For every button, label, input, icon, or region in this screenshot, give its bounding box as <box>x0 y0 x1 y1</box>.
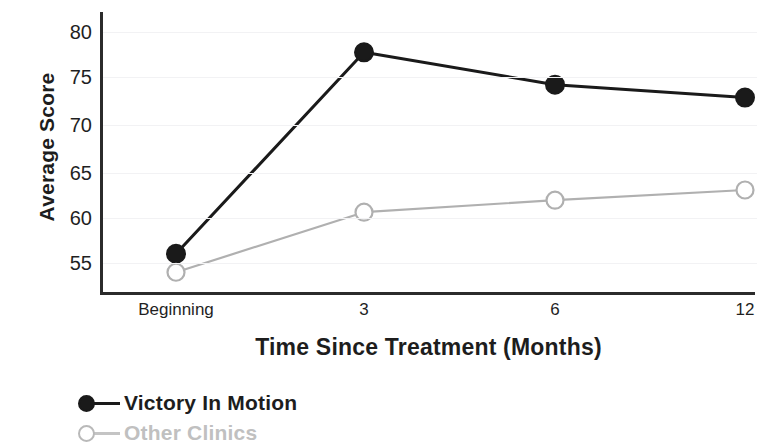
data-point <box>167 245 185 263</box>
gridline-70 <box>100 125 757 126</box>
y-tick-60: 60 <box>46 208 92 228</box>
gridline-55 <box>100 263 757 264</box>
gridline-60 <box>100 218 757 219</box>
legend-label-victory-in-motion: Victory In Motion <box>124 391 297 415</box>
x-axis-title: Time Since Treatment (Months) <box>100 334 757 361</box>
y-tick-80: 80 <box>46 22 92 42</box>
y-axis-tick-labels: 80 75 70 65 60 55 <box>36 0 92 448</box>
data-point <box>737 182 754 199</box>
series-other-clinics <box>168 182 754 281</box>
y-tick-55: 55 <box>46 253 92 273</box>
y-axis-spine <box>100 12 103 295</box>
line-chart-figure: Average Score 80 75 70 65 60 55 Beginnin… <box>0 0 761 448</box>
data-series-layer <box>100 14 757 293</box>
y-tick-65: 65 <box>46 163 92 183</box>
data-point <box>546 76 564 94</box>
x-axis-spine <box>100 292 755 295</box>
legend-key-open-circle-icon <box>78 421 124 445</box>
gridline-75 <box>100 77 757 78</box>
y-tick-75: 75 <box>46 67 92 87</box>
x-tick-3: 3 <box>359 300 368 320</box>
gridline-80 <box>100 32 757 33</box>
legend-key-filled-circle-icon <box>78 391 124 415</box>
legend-item-victory-in-motion: Victory In Motion <box>78 388 478 418</box>
gridline-65 <box>100 173 757 174</box>
data-point <box>547 192 564 209</box>
data-point <box>355 43 373 61</box>
x-tick-12: 12 <box>736 300 755 320</box>
series-line <box>176 52 745 253</box>
legend-label-other-clinics: Other Clinics <box>124 421 257 445</box>
y-tick-70: 70 <box>46 115 92 135</box>
data-point <box>736 89 754 107</box>
x-tick-6: 6 <box>550 300 559 320</box>
x-tick-beginning: Beginning <box>138 300 214 320</box>
x-axis-tick-labels: Beginning 3 6 12 <box>0 300 761 326</box>
chart-legend: Victory In Motion Other Clinics <box>78 388 478 448</box>
plot-area <box>100 14 757 293</box>
series-line <box>176 190 745 272</box>
data-point <box>168 264 185 281</box>
legend-item-other-clinics: Other Clinics <box>78 418 478 448</box>
